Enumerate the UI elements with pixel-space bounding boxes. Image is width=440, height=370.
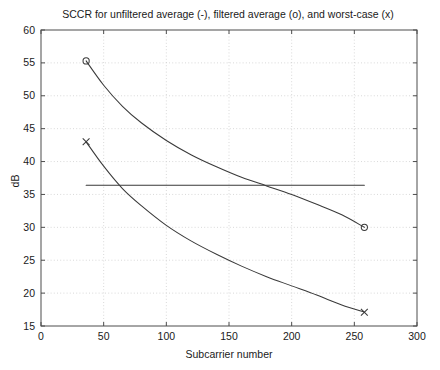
y-tick-label: 25 <box>23 254 35 266</box>
y-tick-label: 20 <box>23 287 35 299</box>
x-tick-label: 0 <box>38 330 44 342</box>
x-tick-label: 200 <box>283 330 301 342</box>
y-tick-labels: 15202530354045505560 <box>23 24 35 332</box>
chart-svg: SCCR for unfiltered average (-), filtere… <box>0 0 440 370</box>
y-tick-label: 15 <box>23 320 35 332</box>
series-x <box>83 138 368 315</box>
x-tick-label: 250 <box>346 330 364 342</box>
y-tick-label: 50 <box>23 89 35 101</box>
y-tick-label: 60 <box>23 24 35 36</box>
y-tick-label: 40 <box>23 155 35 167</box>
x-tick-label: 50 <box>98 330 110 342</box>
chart-title: SCCR for unfiltered average (-), filtere… <box>62 8 393 20</box>
x-tick-label: 300 <box>408 330 426 342</box>
y-tick-label: 45 <box>23 122 35 134</box>
grid-lines <box>41 30 417 326</box>
y-tick-label: 30 <box>23 221 35 233</box>
x-tick-label: 100 <box>158 330 176 342</box>
chart-figure: SCCR for unfiltered average (-), filtere… <box>0 0 440 370</box>
y-tick-label: 35 <box>23 188 35 200</box>
series-o <box>83 58 367 231</box>
y-tick-label: 55 <box>23 56 35 68</box>
x-axis-label: Subcarrier number <box>186 348 273 360</box>
x-tick-labels: 050100150200250300 <box>38 330 426 342</box>
series-line <box>86 61 364 227</box>
data-series <box>83 58 368 316</box>
x-tick-label: 150 <box>220 330 238 342</box>
y-axis-label: dB <box>9 175 21 188</box>
